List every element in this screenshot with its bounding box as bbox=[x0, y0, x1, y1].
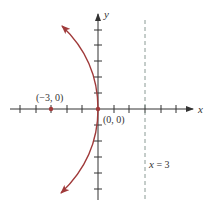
parabola-graph: y x (−3, 0) (0, 0) x = 3 bbox=[0, 0, 211, 213]
x-axis-label: x bbox=[197, 103, 203, 115]
focus-label: (−3, 0) bbox=[36, 92, 63, 104]
parabola-lower-branch bbox=[61, 109, 98, 193]
y-axis-label: y bbox=[103, 8, 109, 20]
focus-point bbox=[49, 107, 53, 111]
directrix-label: x = 3 bbox=[148, 158, 170, 170]
vertex-label: (0, 0) bbox=[103, 114, 125, 126]
vertex-point bbox=[96, 107, 100, 111]
parabola-upper-branch bbox=[62, 26, 98, 109]
